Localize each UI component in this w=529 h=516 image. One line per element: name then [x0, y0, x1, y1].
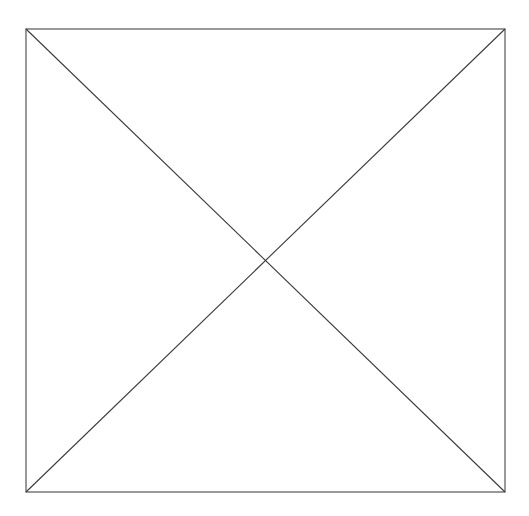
placeholder-graphic — [0, 0, 529, 516]
placeholder-image — [0, 0, 529, 516]
